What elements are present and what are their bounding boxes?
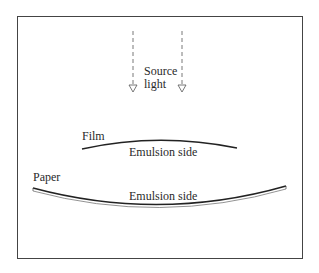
paper-emulsion-label: Emulsion side [129,189,197,203]
light-ray-right [178,31,186,92]
film-label: Film [82,129,105,143]
source-light-label-line1: Source [144,64,177,78]
source-light-label-line2: light [144,77,167,91]
contact-printing-diagram: Source light Film Emulsion side Paper Em… [0,0,319,273]
light-ray-left [129,31,137,92]
film-emulsion-label: Emulsion side [129,145,197,159]
arrowhead-down-icon [178,85,186,92]
paper-label: Paper [33,170,60,184]
arrowhead-down-icon [129,85,137,92]
diagram-frame [18,17,303,259]
